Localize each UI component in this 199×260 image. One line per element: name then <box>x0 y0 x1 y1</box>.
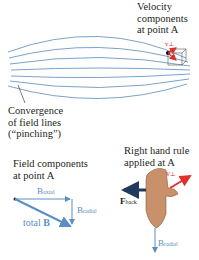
magnetic-field-lines <box>8 36 190 98</box>
b-axial-label: Baxial <box>37 186 55 199</box>
right-hand-rule-label: Right hand rule applied at A <box>124 145 189 168</box>
b-radial-hand-label: Bradial <box>158 238 178 251</box>
velocity-components-label: Velocity components at point A <box>137 1 188 36</box>
v-perp-hand-label: v⊥ <box>166 168 176 181</box>
f-back-label: Fback <box>120 196 137 209</box>
right-hand-icon <box>124 168 190 252</box>
v-perp-label: v⊥ <box>165 39 174 51</box>
convergence-pointer <box>18 85 25 103</box>
b-radial-label: Bradial <box>77 205 97 218</box>
total-b-label: total B <box>23 217 50 229</box>
field-components-label: Field components at point A <box>13 158 88 181</box>
convergence-label: Convergence of field lines (“pinching”) <box>8 105 63 140</box>
